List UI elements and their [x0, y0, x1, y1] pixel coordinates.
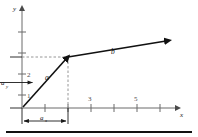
vector-b-label: b — [111, 47, 115, 56]
x-axis-label: x — [179, 111, 184, 119]
x-tick-label-3: 3 — [88, 95, 92, 103]
ax-label-group: a x — [40, 114, 48, 123]
ax-label-subscript: x — [44, 118, 48, 123]
y-axis — [18, 10, 26, 108]
ax-label: a — [40, 114, 44, 122]
vector-diagram-figure: y x 1 2 3 5 a b a y a x — [0, 0, 198, 137]
vector-a-label: a — [45, 73, 49, 82]
diagram-canvas: y x 1 2 3 5 a b a y a x — [0, 0, 198, 137]
bottom-horizontal-rule — [6, 131, 192, 133]
x-tick-label-5: 5 — [134, 95, 138, 103]
vector-a-arrow — [23, 59, 66, 107]
ay-label-subscript: y — [5, 84, 9, 89]
x-axis — [22, 104, 176, 112]
y-axis-label: y — [12, 5, 17, 13]
y-tick-label-2: 2 — [27, 71, 31, 79]
vector-b-arrow — [68, 41, 166, 57]
ay-label: a — [1, 79, 5, 87]
ay-label-group: a y — [1, 79, 9, 89]
